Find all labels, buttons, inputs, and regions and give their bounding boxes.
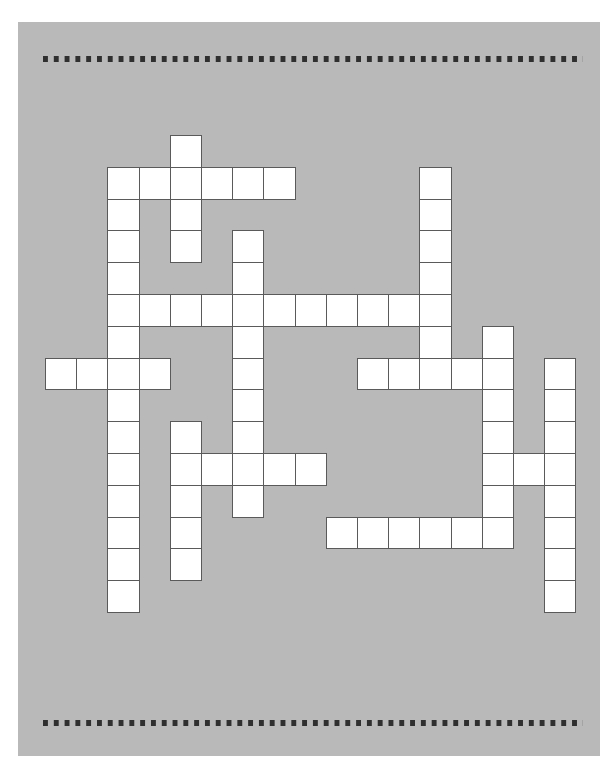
- crossword-cell[interactable]: [107, 294, 140, 327]
- crossword-cell[interactable]: [544, 358, 576, 390]
- crossword-cell[interactable]: [139, 167, 171, 200]
- crossword-cell[interactable]: [232, 485, 264, 518]
- crossword-cell[interactable]: [107, 167, 140, 200]
- crossword-cell[interactable]: [357, 517, 389, 549]
- crossword-cell[interactable]: [357, 294, 389, 327]
- crossword-cell[interactable]: [482, 326, 514, 359]
- crossword-cell[interactable]: [263, 167, 296, 200]
- crossword-cell[interactable]: [232, 421, 264, 454]
- crossword-cell[interactable]: [482, 421, 514, 454]
- crossword-cell[interactable]: [170, 230, 202, 263]
- crossword-grid: [0, 0, 615, 777]
- crossword-cell[interactable]: [544, 485, 576, 518]
- crossword-cell[interactable]: [482, 389, 514, 422]
- crossword-cell[interactable]: [170, 294, 202, 327]
- crossword-cell[interactable]: [76, 358, 108, 390]
- crossword-cell[interactable]: [482, 485, 514, 518]
- crossword-cell[interactable]: [107, 517, 140, 549]
- crossword-cell[interactable]: [419, 262, 452, 295]
- crossword-cell[interactable]: [232, 167, 264, 200]
- crossword-cell[interactable]: [170, 199, 202, 231]
- crossword-cell[interactable]: [107, 548, 140, 581]
- crossword-cell[interactable]: [419, 326, 452, 359]
- crossword-cell[interactable]: [263, 453, 296, 486]
- crossword-cell[interactable]: [295, 294, 327, 327]
- crossword-cell[interactable]: [201, 294, 233, 327]
- crossword-cell[interactable]: [544, 580, 576, 613]
- crossword-cell[interactable]: [170, 135, 202, 168]
- crossword-cell[interactable]: [107, 230, 140, 263]
- crossword-cell[interactable]: [232, 453, 264, 486]
- crossword-cell[interactable]: [107, 199, 140, 231]
- crossword-cell[interactable]: [419, 167, 452, 200]
- crossword-cell[interactable]: [107, 485, 140, 518]
- crossword-cell[interactable]: [139, 358, 171, 390]
- crossword-cell[interactable]: [482, 517, 514, 549]
- crossword-cell[interactable]: [170, 453, 202, 486]
- crossword-cell[interactable]: [170, 517, 202, 549]
- crossword-cell[interactable]: [232, 294, 264, 327]
- crossword-cell[interactable]: [482, 358, 514, 390]
- crossword-cell[interactable]: [107, 421, 140, 454]
- crossword-cell[interactable]: [107, 453, 140, 486]
- crossword-cell[interactable]: [544, 548, 576, 581]
- crossword-cell[interactable]: [419, 230, 452, 263]
- crossword-cell[interactable]: [388, 294, 420, 327]
- crossword-cell[interactable]: [107, 262, 140, 295]
- crossword-cell[interactable]: [139, 294, 171, 327]
- crossword-cell[interactable]: [419, 358, 452, 390]
- crossword-cell[interactable]: [326, 517, 358, 549]
- crossword-cell[interactable]: [544, 453, 576, 486]
- crossword-cell[interactable]: [544, 389, 576, 422]
- crossword-cell[interactable]: [107, 580, 140, 613]
- crossword-cell[interactable]: [326, 294, 358, 327]
- crossword-cell[interactable]: [419, 517, 452, 549]
- crossword-cell[interactable]: [232, 230, 264, 263]
- crossword-cell[interactable]: [232, 358, 264, 390]
- crossword-cell[interactable]: [388, 517, 420, 549]
- crossword-cell[interactable]: [107, 389, 140, 422]
- crossword-cell[interactable]: [170, 485, 202, 518]
- crossword-cell[interactable]: [232, 326, 264, 359]
- crossword-cell[interactable]: [170, 167, 202, 200]
- crossword-cell[interactable]: [201, 167, 233, 200]
- crossword-cell[interactable]: [451, 358, 483, 390]
- crossword-cell[interactable]: [419, 199, 452, 231]
- crossword-cell[interactable]: [419, 294, 452, 327]
- crossword-cell[interactable]: [388, 358, 420, 390]
- crossword-cell[interactable]: [451, 517, 483, 549]
- crossword-cell[interactable]: [482, 453, 514, 486]
- crossword-cell[interactable]: [263, 294, 296, 327]
- crossword-cell[interactable]: [295, 453, 327, 486]
- crossword-cell[interactable]: [232, 389, 264, 422]
- crossword-cell[interactable]: [107, 358, 140, 390]
- crossword-cell[interactable]: [357, 358, 389, 390]
- crossword-cell[interactable]: [170, 421, 202, 454]
- crossword-cell[interactable]: [201, 453, 233, 486]
- crossword-cell[interactable]: [544, 421, 576, 454]
- crossword-cell[interactable]: [107, 326, 140, 359]
- crossword-cell[interactable]: [45, 358, 77, 390]
- crossword-cell[interactable]: [513, 453, 545, 486]
- crossword-cell[interactable]: [232, 262, 264, 295]
- crossword-cell[interactable]: [170, 548, 202, 581]
- crossword-cell[interactable]: [544, 517, 576, 549]
